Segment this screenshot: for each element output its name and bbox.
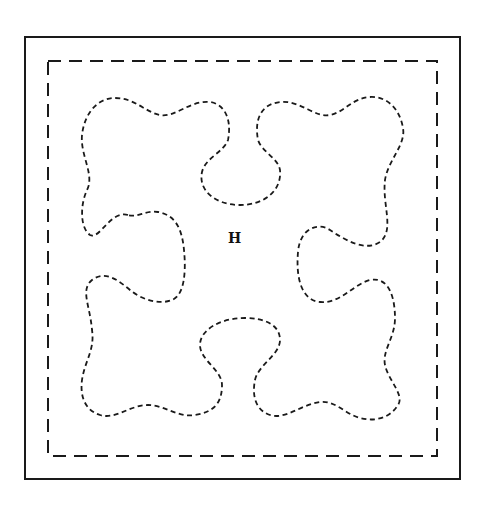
inner-border-dashed	[48, 61, 437, 456]
motif-top-left	[82, 97, 404, 420]
center-label: H	[228, 231, 241, 245]
pattern-canvas	[0, 0, 487, 508]
outer-border	[25, 37, 460, 479]
